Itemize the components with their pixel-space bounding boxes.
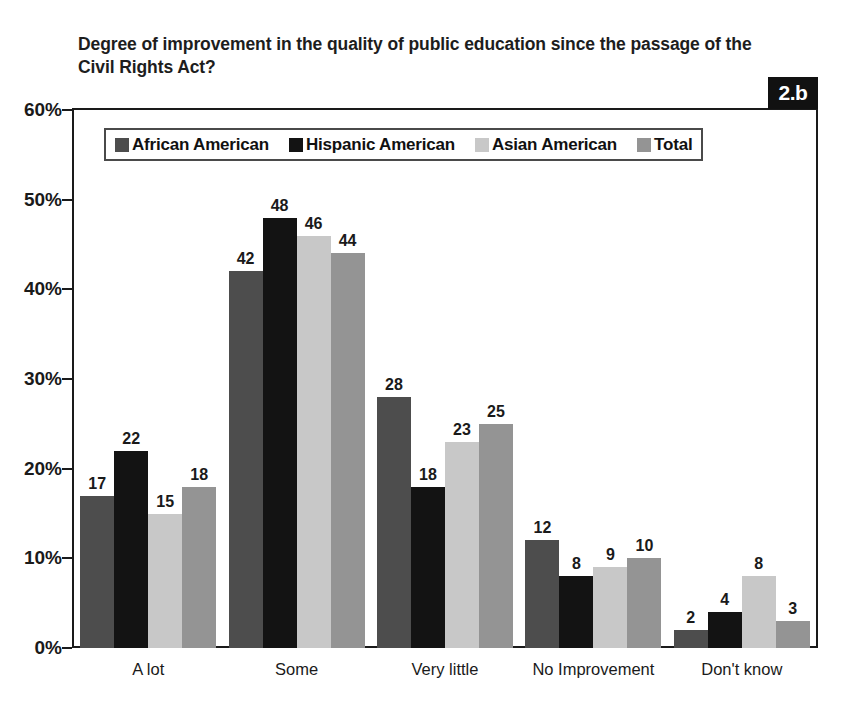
bar-value-label: 44 [326,232,370,250]
y-axis-tick-label: 40% [0,278,62,300]
bar[interactable] [708,612,742,648]
x-axis-category-label: Don't know [701,660,782,679]
y-axis-tick-mark [62,468,72,470]
bar-value-label: 18 [177,466,221,484]
bar-group: 2483 [674,110,810,648]
legend-swatch-icon [115,138,129,152]
bar-value-label: 48 [258,197,302,215]
bar[interactable] [411,487,445,648]
bar-group: 42484644 [229,110,365,648]
legend-label: Hispanic American [306,135,455,155]
legend-label: Asian American [492,135,617,155]
y-axis-tick-mark [62,199,72,201]
legend-label: Total [654,135,692,155]
bar-value-label: 25 [474,403,518,421]
bar[interactable] [229,271,263,648]
y-axis-tick-mark [62,109,72,111]
bar[interactable] [377,397,411,648]
legend-item[interactable]: African American [115,135,269,155]
bar-value-label: 23 [440,421,484,439]
bar-group: 28182325 [377,110,513,648]
figure-container: Degree of improvement in the quality of … [0,0,862,725]
bar-group: 17221518 [80,110,216,648]
bar-value-label: 8 [737,555,781,573]
bar-value-label: 3 [771,600,815,618]
bar[interactable] [674,630,708,648]
legend-item[interactable]: Hispanic American [289,135,455,155]
bar[interactable] [114,451,148,648]
legend-swatch-icon [475,138,489,152]
y-axis-tick-label: 10% [0,547,62,569]
bar-group: 128910 [525,110,661,648]
bar[interactable] [593,567,627,648]
x-axis-category-label: No Improvement [532,660,654,679]
legend-item[interactable]: Total [637,135,692,155]
bar-value-label: 46 [292,215,336,233]
bar-value-label: 2 [669,609,713,627]
x-axis-category-label: Some [275,660,318,679]
legend-item[interactable]: Asian American [475,135,617,155]
y-axis-tick-mark [62,288,72,290]
bar[interactable] [80,496,114,648]
chart-legend: African AmericanHispanic AmericanAsian A… [104,128,703,161]
bar[interactable] [297,236,331,648]
bar[interactable] [182,487,216,648]
y-axis-tick-mark [62,557,72,559]
bar-value-label: 15 [143,493,187,511]
y-axis-tick-label: 50% [0,189,62,211]
bar-value-label: 4 [703,591,747,609]
bar-value-label: 28 [372,376,416,394]
bar[interactable] [148,514,182,649]
y-axis-tick-label: 60% [0,99,62,121]
x-axis-category-label: A lot [132,660,164,679]
bar-value-label: 10 [622,537,666,555]
figure-number-badge: 2.b [768,77,818,109]
y-axis-tick-mark [62,378,72,380]
legend-label: African American [132,135,269,155]
bar[interactable] [331,253,365,648]
bar[interactable] [263,218,297,648]
bar-value-label: 17 [75,475,119,493]
legend-swatch-icon [289,138,303,152]
bar[interactable] [445,442,479,648]
plot-area: 1722151842484644281823251289102483 [74,110,816,648]
bar[interactable] [479,424,513,648]
x-axis-category-label: Very little [412,660,479,679]
bar-value-label: 18 [406,466,450,484]
y-axis-tick-label: 0% [0,637,62,659]
y-axis-tick-label: 30% [0,368,62,390]
y-axis-tick-mark [62,647,72,649]
bar[interactable] [627,558,661,648]
bar-value-label: 42 [224,250,268,268]
bar-value-label: 12 [520,519,564,537]
bar-value-label: 22 [109,430,153,448]
bar[interactable] [776,621,810,648]
chart-title: Degree of improvement in the quality of … [78,33,778,79]
bar[interactable] [559,576,593,648]
y-axis-tick-label: 20% [0,458,62,480]
legend-swatch-icon [637,138,651,152]
